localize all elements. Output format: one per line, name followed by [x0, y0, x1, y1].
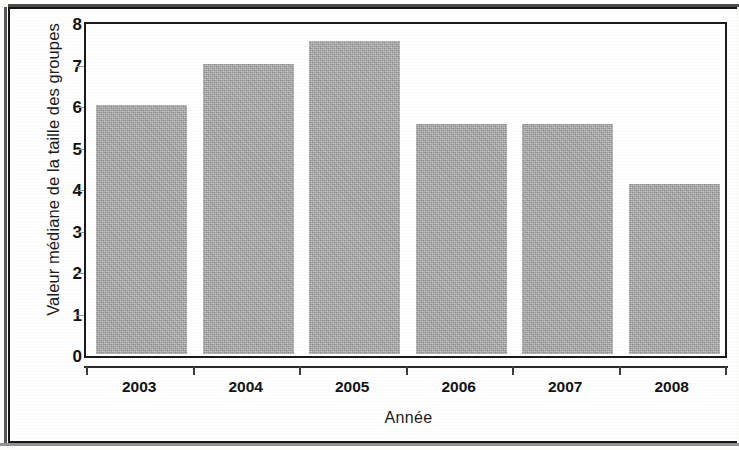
bar	[629, 184, 720, 354]
y-tick-mark	[76, 232, 84, 233]
x-tick-label: 2005	[317, 378, 387, 396]
y-tick-mark	[76, 315, 84, 316]
bar	[96, 105, 187, 354]
y-tick-mark	[76, 190, 84, 191]
x-tick-label: 2006	[424, 378, 494, 396]
y-axis-title-holder: Valeur médiane de la taille des groupes	[20, 10, 54, 360]
x-tick-label: 2008	[637, 378, 707, 396]
bars-layer	[88, 26, 723, 354]
bar	[416, 124, 507, 354]
plot-inner	[86, 24, 725, 356]
x-tick-mark	[193, 366, 195, 375]
x-tick-mark	[86, 366, 88, 375]
x-tick-mark	[406, 366, 408, 375]
frame-bottom-edge	[0, 443, 739, 446]
plot-area	[84, 22, 727, 358]
bar	[522, 124, 613, 354]
y-tick-mark	[76, 273, 84, 274]
bar	[309, 41, 400, 354]
y-axis-ticks: 876543210	[52, 0, 82, 450]
x-tick-label: 2007	[530, 378, 600, 396]
y-tick-mark	[76, 107, 84, 108]
y-tick-label: 8	[60, 16, 82, 33]
y-tick-label: 0	[60, 348, 82, 365]
figure-container: Valeur médiane de la taille des groupes …	[0, 0, 739, 450]
bar	[203, 64, 294, 355]
x-tick-mark	[512, 366, 514, 375]
x-axis-title-wrap: Année	[0, 409, 739, 427]
y-tick-mark	[76, 149, 84, 150]
x-tick-mark	[725, 366, 727, 375]
y-tick-mark	[76, 66, 84, 67]
x-tick-mark	[619, 366, 621, 375]
x-axis-title: Année	[385, 409, 433, 427]
x-tick-mark	[299, 366, 301, 375]
x-tick-label: 2003	[104, 378, 174, 396]
frame-left-edge	[4, 7, 7, 443]
x-tick-label: 2004	[211, 378, 281, 396]
